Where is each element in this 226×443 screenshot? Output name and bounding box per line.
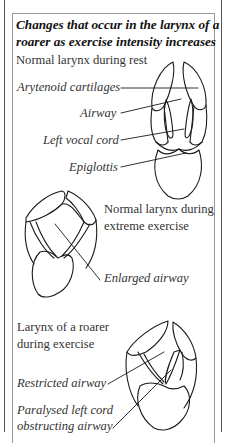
leader-lines-panel2 bbox=[55, 224, 100, 280]
larynx-roarer-illustration bbox=[126, 321, 196, 430]
leader-lines-panel3 bbox=[108, 352, 171, 428]
leader-lines-panel1 bbox=[121, 88, 198, 167]
larynx-extreme-exercise-illustration bbox=[25, 191, 96, 297]
larynx-rest-illustration bbox=[151, 62, 207, 199]
